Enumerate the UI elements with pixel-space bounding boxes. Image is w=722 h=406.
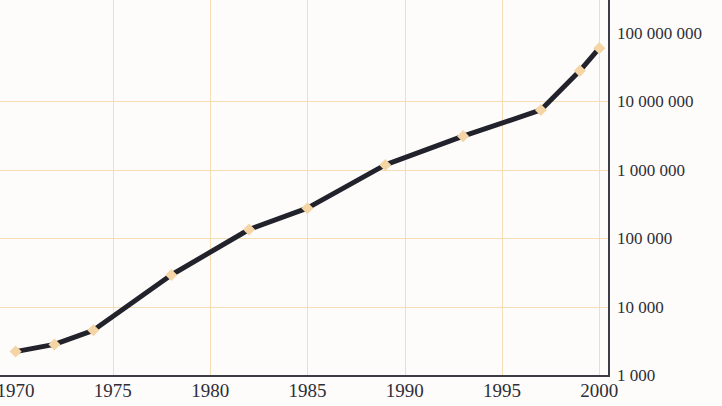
x-axis-tick-label: 1970 (0, 381, 35, 400)
x-axis-tick-label: 1980 (191, 381, 229, 400)
x-axis-tick-label: 1995 (483, 381, 521, 400)
x-axis-line (0, 375, 610, 377)
x-axis-tick-label: 1975 (94, 381, 132, 400)
plot-area (0, 0, 609, 376)
data-series-line (0, 0, 609, 376)
y-axis-tick-label: 1 000 000 (617, 161, 685, 178)
x-axis-tick-label: 2000 (580, 381, 618, 400)
y-axis-tick-label: 100 000 (617, 230, 672, 247)
y-axis-line (608, 0, 610, 377)
chart-figure: 1 00010 000100 0001 000 00010 000 000100… (0, 0, 722, 406)
data-point-marker (48, 338, 60, 350)
series-markers (10, 42, 606, 357)
y-axis-tick-label: 10 000 000 (617, 93, 694, 110)
data-point-marker (10, 346, 22, 358)
y-axis-tick-label: 100 000 000 (617, 25, 702, 42)
series-polyline (16, 48, 600, 351)
y-axis-tick-label: 10 000 (617, 298, 664, 315)
y-axis-tick-label: 1 000 (617, 367, 655, 384)
x-axis-tick-label: 1990 (386, 381, 424, 400)
x-axis-tick-label: 1985 (288, 381, 326, 400)
